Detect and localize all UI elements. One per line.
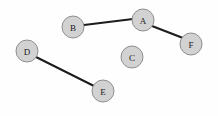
- edge-a-f: [152, 26, 183, 38]
- node-a-circle[interactable]: [132, 9, 154, 31]
- node-c-circle[interactable]: [121, 46, 143, 68]
- node-d[interactable]: D: [16, 40, 38, 62]
- node-a[interactable]: A: [132, 9, 154, 31]
- node-c[interactable]: C: [121, 46, 143, 68]
- node-b-circle[interactable]: [62, 16, 84, 38]
- node-d-circle[interactable]: [16, 40, 38, 62]
- node-layer: B A F C D E: [16, 9, 202, 102]
- node-f-circle[interactable]: [180, 33, 202, 55]
- node-b[interactable]: B: [62, 16, 84, 38]
- graph-svg-canvas: B A F C D E: [0, 0, 218, 116]
- node-e[interactable]: E: [92, 80, 114, 102]
- node-f[interactable]: F: [180, 33, 202, 55]
- edge-layer: [36, 19, 183, 86]
- graph-diagram: B A F C D E: [0, 0, 218, 116]
- node-e-circle[interactable]: [92, 80, 114, 102]
- edge-d-e: [36, 57, 94, 86]
- edge-b-a: [84, 19, 133, 25]
